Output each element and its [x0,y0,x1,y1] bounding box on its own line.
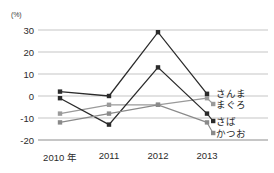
line-chart: (%) 30 20 10 0 -10 -20 2010 年 2011 2012 … [0,0,274,173]
series-markers [58,30,216,135]
data-point-marker [156,65,160,69]
data-point-marker [58,120,62,124]
data-point-marker [107,103,111,107]
data-point-marker [205,92,209,96]
series-line-1 [60,98,207,113]
legend-marker-2 [211,119,215,123]
data-point-marker [156,103,160,107]
legend-marker-3 [211,131,215,135]
data-point-marker [58,89,62,93]
series-line-3 [60,105,207,123]
data-point-marker [107,94,111,98]
legend-marker-1 [211,102,215,106]
series-line-0 [60,32,207,96]
data-point-marker [205,111,209,115]
data-point-marker [58,96,62,100]
legend-item-maguro: まぐろ [216,97,246,111]
data-point-marker [205,96,209,100]
data-point-marker [107,111,111,115]
legend-item-katsuo: かつお [216,126,246,140]
data-point-marker [58,111,62,115]
data-point-marker [205,120,209,124]
data-point-marker [156,30,160,34]
data-point-marker [107,122,111,126]
